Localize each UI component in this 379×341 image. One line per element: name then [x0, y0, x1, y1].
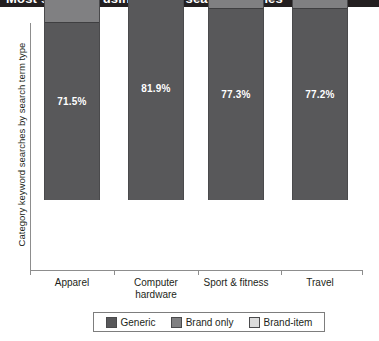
- stacked-bar[interactable]: 27.5% 71.5%: [44, 0, 100, 200]
- bar-segment-generic[interactable]: 77.3%: [209, 9, 263, 200]
- bar-group-computer-hardware: 3.8% 14.3% 81.9%: [128, 0, 184, 200]
- legend-item-brand-item[interactable]: Brand-item: [249, 317, 313, 328]
- stacked-bar[interactable]: 21.2% 77.2%: [292, 0, 348, 200]
- bar-segment-label: 77.2%: [305, 90, 334, 100]
- legend-swatch-generic: [106, 317, 117, 328]
- x-axis-tick: [362, 271, 363, 275]
- legend-label: Brand-item: [264, 317, 313, 328]
- legend-item-brand-only[interactable]: Brand only: [171, 317, 234, 328]
- bar-segment-brand-only[interactable]: 21.2%: [293, 0, 347, 9]
- legend-item-generic[interactable]: Generic: [106, 317, 156, 328]
- bar-group-travel: 1.6% 21.2% 77.2%: [292, 0, 348, 200]
- bar-segment-brand-only[interactable]: 22.4%: [209, 0, 263, 9]
- x-axis-category-line: hardware: [101, 289, 211, 301]
- legend-label: Brand only: [186, 317, 234, 328]
- legend-swatch-brand-only: [171, 317, 182, 328]
- bar-segment-label: 81.9%: [141, 84, 170, 94]
- x-axis-tick: [30, 271, 31, 275]
- chart-area: Category keyword searches by search term…: [0, 7, 379, 341]
- bar-segment-label: 71.5%: [57, 97, 86, 107]
- x-axis-tick: [281, 271, 282, 275]
- legend-label: Generic: [121, 317, 156, 328]
- x-axis-category-line: Travel: [265, 277, 375, 289]
- bar-segment-generic[interactable]: 77.2%: [293, 9, 347, 200]
- legend-swatch-brand-item: [249, 317, 260, 328]
- x-axis-tick: [114, 271, 115, 275]
- bar-group-apparel: 1.0% 27.5% 71.5%: [44, 0, 100, 200]
- stacked-bar[interactable]: 22.4% 77.3%: [208, 0, 264, 200]
- legend: Generic Brand only Brand-item: [93, 312, 325, 332]
- bar-segment-brand-only[interactable]: 27.5%: [45, 0, 99, 23]
- bar-segment-label: 77.3%: [221, 90, 250, 100]
- x-axis-tick: [198, 271, 199, 275]
- plot-bars: 1.0% 27.5% 71.5% 3.8% 14.3% 81.9%: [0, 7, 379, 271]
- bar-segment-generic[interactable]: 71.5%: [45, 23, 99, 200]
- bar-segment-generic[interactable]: 81.9%: [129, 0, 183, 200]
- stacked-bar[interactable]: 14.3% 81.9%: [128, 0, 184, 200]
- bar-group-sport-fitness: 0.3% 22.4% 77.3%: [208, 0, 264, 200]
- x-axis-category-travel: Travel: [265, 277, 375, 289]
